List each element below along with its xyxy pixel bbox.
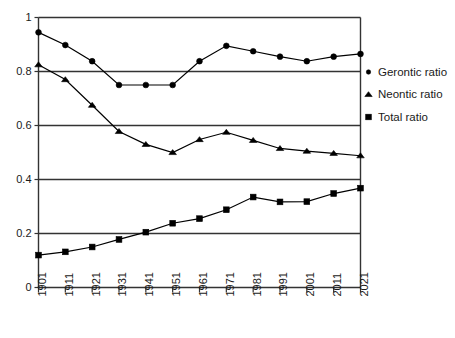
legend-marker-circle-icon <box>366 70 370 74</box>
gridlines <box>39 18 361 234</box>
data-point-marker <box>277 199 283 205</box>
data-point-marker <box>36 252 42 258</box>
data-point-marker <box>331 54 337 60</box>
y-axis-tick-labels: 00.20.40.60.81 <box>16 11 31 293</box>
data-point-marker <box>62 42 68 48</box>
x-tick-label: 1941 <box>143 272 155 296</box>
data-point-marker <box>143 229 149 235</box>
x-tick-label: 1921 <box>90 272 102 296</box>
series-gerontic-ratio <box>36 29 364 87</box>
x-tick-label: 2011 <box>331 273 343 297</box>
data-point-marker <box>116 82 122 88</box>
data-point-marker <box>223 207 229 213</box>
legend-marker-square-icon <box>366 114 372 120</box>
chart-legend: Gerontic ratioNeontic ratioTotal ratio <box>365 66 447 123</box>
data-point-marker <box>304 58 310 64</box>
data-series <box>35 29 365 257</box>
y-tick-label: 0.6 <box>16 119 31 131</box>
axes <box>35 18 361 293</box>
data-point-marker <box>250 48 256 54</box>
y-tick-label: 0.2 <box>16 227 31 239</box>
legend-label: Gerontic ratio <box>378 66 447 78</box>
data-point-marker <box>89 58 95 64</box>
legend-label: Neontic ratio <box>378 88 443 100</box>
data-point-marker <box>358 185 364 191</box>
data-point-marker <box>116 237 122 243</box>
data-point-marker <box>304 199 310 205</box>
data-point-marker <box>250 194 256 200</box>
legend-item-gerontic-ratio[interactable]: Gerontic ratio <box>366 66 447 78</box>
data-point-marker <box>89 244 95 250</box>
x-tick-label: 2001 <box>304 272 316 296</box>
legend-label: Total ratio <box>378 111 428 123</box>
y-tick-label: 1 <box>25 11 31 23</box>
x-tick-label: 1961 <box>197 272 209 296</box>
data-point-marker <box>358 51 364 57</box>
series-line <box>39 65 361 156</box>
data-point-marker <box>35 62 43 67</box>
data-point-marker <box>143 82 149 88</box>
line-chart: 00.20.40.60.81 1901191119211931194119511… <box>0 0 455 338</box>
data-point-marker <box>197 58 203 64</box>
data-point-marker <box>277 54 283 60</box>
x-axis-tick-labels: 1901191119211931194119511961197119811991… <box>36 272 370 296</box>
y-tick-label: 0 <box>25 281 31 293</box>
data-point-marker <box>223 129 231 134</box>
x-tick-label: 1931 <box>116 272 128 296</box>
x-tick-label: 1991 <box>277 272 289 296</box>
series-total-ratio <box>36 185 364 258</box>
data-point-marker <box>170 220 176 226</box>
x-tick-label: 1971 <box>224 272 236 296</box>
legend-item-neontic-ratio[interactable]: Neontic ratio <box>365 88 443 100</box>
data-point-marker <box>62 249 68 255</box>
data-point-marker <box>197 216 203 222</box>
x-tick-label: 1981 <box>251 272 263 296</box>
x-tick-label: 2021 <box>358 272 370 296</box>
x-tick-label: 1951 <box>170 272 182 296</box>
y-tick-label: 0.8 <box>16 65 31 77</box>
legend-marker-triangle-icon <box>365 92 372 97</box>
x-tick-label: 1911 <box>63 273 75 297</box>
chart-canvas: 00.20.40.60.81 1901191119211931194119511… <box>0 0 455 338</box>
series-neontic-ratio <box>35 62 365 158</box>
data-point-marker <box>142 142 150 147</box>
data-point-marker <box>223 43 229 49</box>
data-point-marker <box>36 29 42 35</box>
x-tick-label: 1901 <box>36 272 48 296</box>
legend-item-total-ratio[interactable]: Total ratio <box>366 111 428 123</box>
data-point-marker <box>170 82 176 88</box>
data-point-marker <box>331 191 337 197</box>
y-tick-label: 0.4 <box>16 173 31 185</box>
